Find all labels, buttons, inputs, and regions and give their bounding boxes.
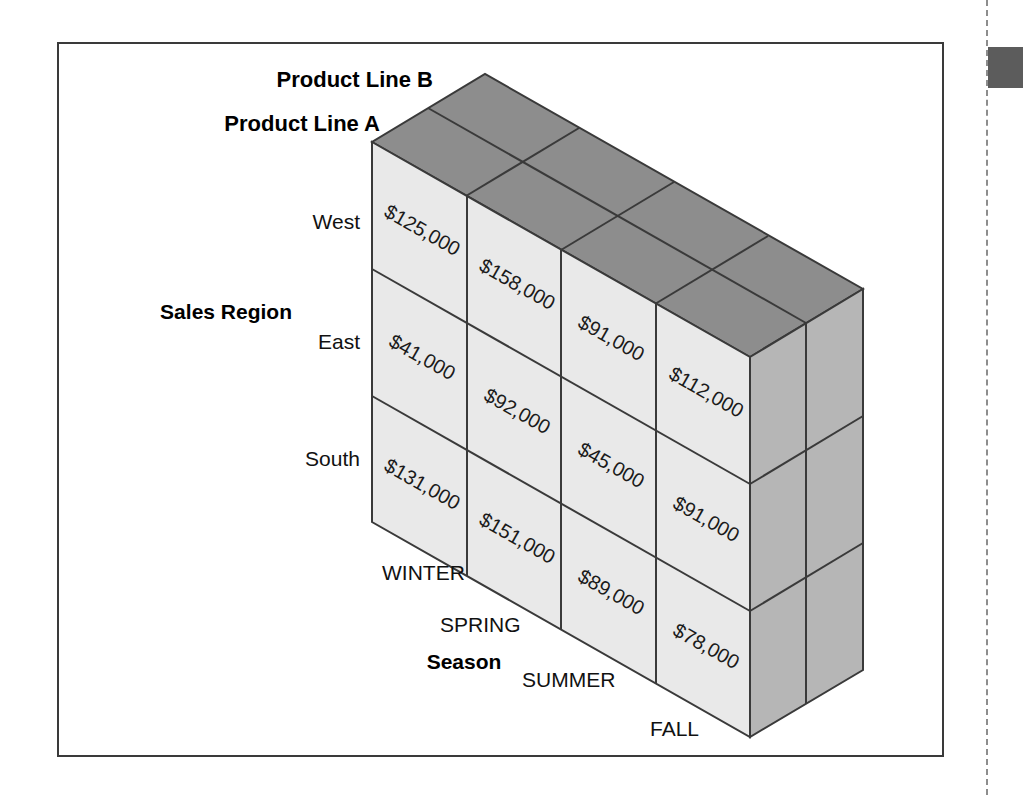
data-cube-illustration: $125,000 $158,000 $91,000 $112,000 $41,0… — [0, 0, 1023, 795]
axis-title-season: Season — [427, 650, 502, 673]
cube-right-side-face — [750, 289, 863, 737]
axis-tick-season-spring: SPRING — [440, 613, 521, 636]
axis-label-product-line-b: Product Line B — [277, 67, 433, 92]
axis-label-product-line-a: Product Line A — [224, 111, 380, 136]
figure-page: $125,000 $158,000 $91,000 $112,000 $41,0… — [0, 0, 1023, 795]
axis-tick-region-east: East — [318, 330, 360, 353]
axis-tick-season-fall: FALL — [650, 717, 699, 740]
axis-title-sales-region: Sales Region — [160, 300, 292, 323]
axis-tick-region-west: West — [313, 210, 361, 233]
axis-tick-season-summer: SUMMER — [522, 668, 615, 691]
axis-tick-season-winter: WINTER — [382, 561, 465, 584]
axis-tick-region-south: South — [305, 447, 360, 470]
